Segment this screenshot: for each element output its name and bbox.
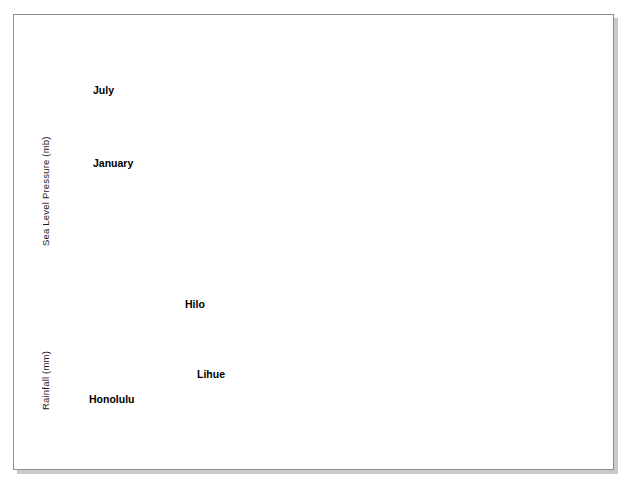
- y-axis-title-rainfall: Rainfall (mm): [40, 351, 51, 410]
- climate-timeseries-chart: [0, 0, 644, 501]
- series-label-january: January: [93, 157, 133, 169]
- figure-root: Sea Level Pressure (mb) Rainfall (mm) Ju…: [0, 0, 644, 501]
- y-axis-title-pressure: Sea Level Pressure (mb): [40, 136, 51, 246]
- series-label-hilo: Hilo: [185, 298, 205, 310]
- series-label-lihue: Lihue: [197, 368, 225, 380]
- series-label-july: July: [93, 84, 114, 96]
- series-label-honolulu: Honolulu: [89, 393, 135, 405]
